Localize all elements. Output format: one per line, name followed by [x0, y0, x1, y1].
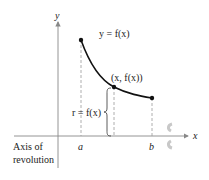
axis-of-revolution-line1: Axis of: [13, 141, 43, 152]
radius-brace: [104, 88, 111, 136]
surface-of-revolution-diagram: x y y = f(x) (x, f(x)) r = f(x) a b Axis…: [0, 0, 209, 180]
tick-label-b: b: [149, 141, 154, 152]
x-axis-label: x: [192, 130, 198, 141]
tick-label-a: a: [78, 141, 83, 152]
endpoint-a: [79, 38, 83, 42]
y-axis-label: y: [54, 10, 60, 21]
axis-of-revolution-line2: revolution: [13, 154, 54, 165]
curve-label: y = f(x): [99, 28, 130, 40]
point-x-fx: [112, 85, 116, 89]
curve-f: [81, 40, 152, 98]
endpoint-b: [150, 96, 154, 100]
point-label: (x, f(x)): [111, 72, 143, 84]
radius-label: r = f(x): [72, 107, 101, 119]
